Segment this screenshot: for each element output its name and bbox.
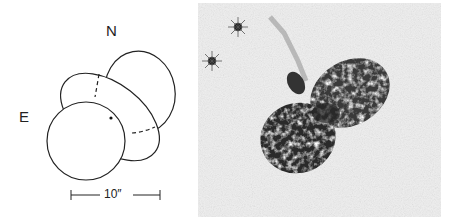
lobe-outlines xyxy=(0,0,200,223)
nebula-rendering xyxy=(198,3,441,217)
schematic-diagram: N E 10″ xyxy=(0,0,200,223)
scale-bar-label: 10″ xyxy=(104,187,122,201)
central-star-dot xyxy=(109,116,112,119)
nebula-image xyxy=(198,3,441,217)
